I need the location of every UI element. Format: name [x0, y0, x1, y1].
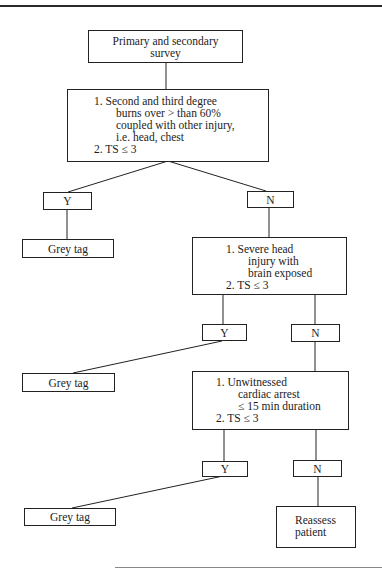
connector-d1-to-y1 [68, 161, 168, 192]
reassess-line-1: Reassess [295, 514, 336, 526]
yes-box-3: Y [202, 461, 248, 477]
no-box-2: N [291, 324, 340, 342]
decision3-item2: 2. TS ≤ 3 [216, 412, 321, 424]
reassess-line-2: patient [295, 526, 336, 538]
decision1-item2: 2. TS ≤ 3 [94, 143, 235, 155]
no-label-1: N [266, 194, 274, 206]
connector-y2-to-grey2 [73, 341, 222, 373]
start-line-2: survey [150, 47, 181, 59]
decision1-item1-line4: i.e. head, chest [94, 131, 235, 143]
decision1-item1-line3: coupled with other injury, [94, 119, 235, 131]
decision-box-head-injury: 1. Severe head injury with brain exposed… [192, 237, 347, 295]
decision2-item1-line3: brain exposed [226, 267, 312, 279]
yes-box-1: Y [43, 192, 92, 210]
connector-y3-to-grey3 [72, 476, 223, 508]
decision2-item1-line1: 1. Severe head [226, 243, 312, 255]
start-box: Primary and secondary survey [88, 30, 243, 63]
decision3-item1-line1: 1. Unwitnessed [216, 376, 321, 388]
decision-box-burns: 1. Second and third degree burns over > … [67, 89, 269, 162]
yes-box-2: Y [202, 324, 247, 341]
grey-tag-label-3: Grey tag [50, 511, 90, 523]
grey-tag-label-1: Grey tag [48, 243, 88, 255]
no-box-1: N [247, 191, 294, 208]
grey-tag-box-1: Grey tag [22, 239, 114, 258]
yes-label-2: Y [220, 327, 228, 339]
decision2-item2: 2. TS ≤ 3 [226, 279, 312, 291]
no-label-2: N [311, 327, 319, 339]
yes-label-1: Y [63, 195, 71, 207]
grey-tag-box-2: Grey tag [22, 373, 115, 392]
connector-d1-to-n1 [168, 161, 266, 191]
decision2-item1-line2: injury with [226, 255, 312, 267]
decision3-item1-line3: ≤ 15 min duration [216, 400, 321, 412]
start-line-1: Primary and secondary [112, 35, 218, 47]
yes-label-3: Y [221, 463, 229, 475]
decision1-item1-line1: 1. Second and third degree [94, 95, 235, 107]
decision1-item1-line2: burns over > than 60% [94, 107, 235, 119]
no-label-3: N [313, 463, 321, 475]
no-box-3: N [293, 460, 342, 477]
decision3-item1-line2: cardiac arrest [216, 388, 321, 400]
grey-tag-label-2: Grey tag [49, 377, 89, 389]
grey-tag-box-3: Grey tag [24, 508, 116, 526]
decision-box-cardiac-arrest: 1. Unwitnessed cardiac arrest ≤ 15 min d… [192, 371, 349, 430]
reassess-patient-box: Reassess patient [276, 506, 356, 548]
